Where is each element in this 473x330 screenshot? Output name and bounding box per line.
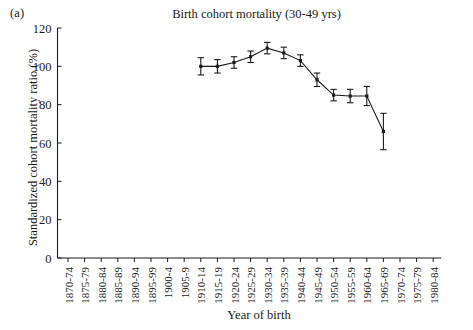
x-tick-label: 1870-74: [63, 267, 75, 304]
x-tick-label: 1975-79: [411, 267, 423, 304]
data-point: [266, 47, 269, 50]
chart-plot-area: 020406080100120 1870-741875-791880-84188…: [0, 0, 473, 330]
data-point: [249, 55, 252, 58]
x-tick-label: 1965-69: [378, 267, 390, 304]
x-tick-label: 1980-84: [428, 267, 440, 304]
x-tick-label: 1970-74: [395, 267, 407, 304]
x-tick-label: 1900-4: [162, 267, 174, 299]
data-series: [198, 42, 387, 149]
y-tick-label: 0: [45, 252, 51, 266]
data-point: [216, 65, 219, 68]
data-point: [365, 94, 368, 97]
x-tick-label: 1915-19: [212, 267, 224, 304]
x-axis: 1870-741875-791880-841885-891890-941895-…: [58, 258, 442, 304]
x-tick-label: 1890-94: [129, 267, 141, 304]
x-tick-label: 1875-79: [79, 267, 91, 304]
x-tick-label: 1955-59: [345, 267, 357, 304]
data-point: [199, 65, 202, 68]
y-tick-label: 80: [39, 98, 52, 112]
y-tick-label: 60: [39, 137, 52, 151]
x-tick-label: 1905-9: [179, 267, 191, 299]
x-tick-label: 1920-24: [229, 267, 241, 304]
y-tick-label: 40: [39, 175, 52, 189]
x-tick-label: 1925-29: [245, 267, 257, 304]
x-tick-label: 1885-89: [112, 267, 124, 304]
y-axis: 020406080100120: [33, 22, 62, 266]
x-tick-label: 1940-44: [295, 267, 307, 304]
data-point: [382, 130, 385, 133]
x-tick-label: 1930-34: [262, 267, 274, 304]
data-point: [349, 94, 352, 97]
x-tick-label: 1880-84: [96, 267, 108, 304]
data-point: [299, 59, 302, 62]
y-tick-label: 120: [33, 22, 52, 36]
x-tick-label: 1910-14: [195, 267, 207, 304]
x-tick-label: 1895-99: [146, 267, 158, 304]
data-point: [332, 93, 335, 96]
x-tick-label: 1960-64: [361, 267, 373, 304]
y-tick-label: 100: [33, 60, 52, 74]
y-tick-label: 20: [39, 213, 52, 227]
data-point: [315, 78, 318, 81]
x-tick-label: 1935-39: [278, 267, 290, 304]
x-tick-label: 1945-49: [312, 267, 324, 304]
x-tick-label: 1950-54: [328, 267, 340, 304]
data-point: [282, 51, 285, 54]
data-point: [232, 61, 235, 64]
